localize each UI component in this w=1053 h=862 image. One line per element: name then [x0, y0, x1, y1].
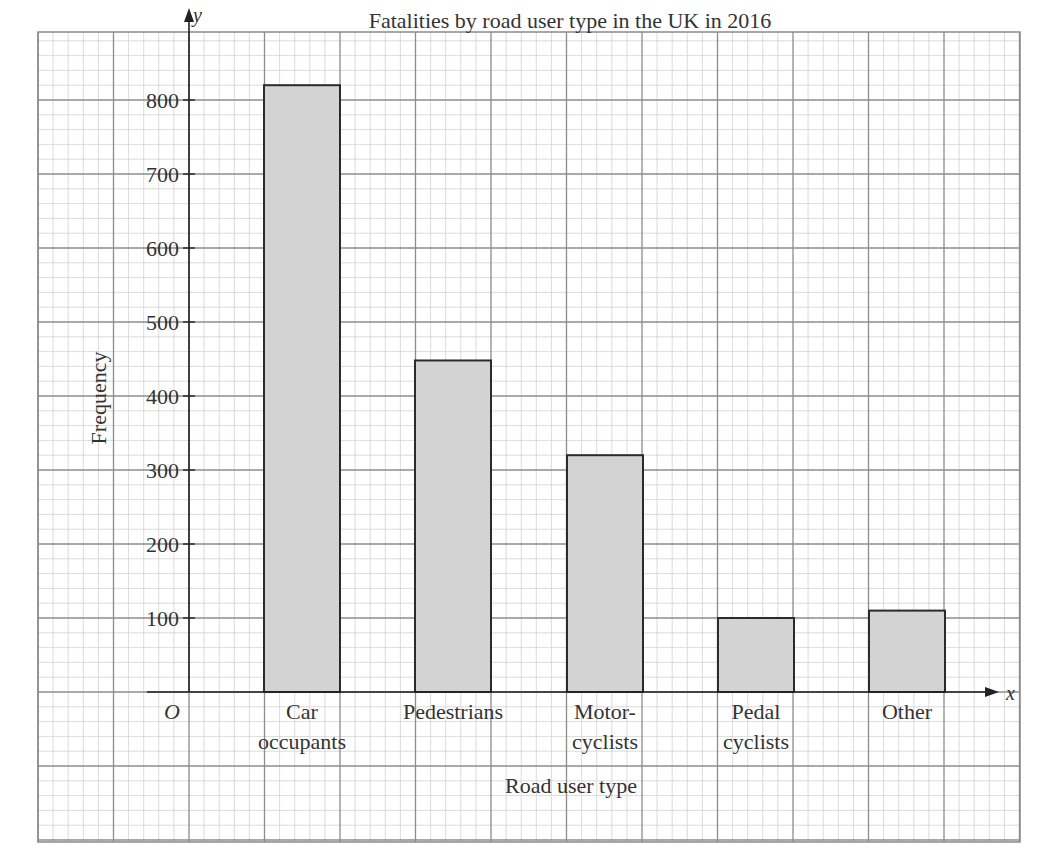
bar-car-occupants: [264, 85, 340, 692]
y-tick-label: 700: [146, 162, 179, 187]
y-tick-label: 500: [146, 310, 179, 335]
x-axis-symbol: x: [1005, 682, 1015, 704]
y-tick-label: 100: [146, 606, 179, 631]
y-tick-label: 200: [146, 532, 179, 557]
x-axis-arrow-icon: [985, 687, 999, 697]
y-axis-label: Frequency: [86, 352, 111, 445]
y-tick-label: 400: [146, 384, 179, 409]
grid-major-lines: [38, 32, 1020, 842]
x-category-label: cyclists: [572, 729, 638, 754]
x-category-label: Car: [286, 699, 318, 724]
bar-motorcyclists: [567, 455, 643, 692]
y-ticks: 100200300400500600700800: [146, 88, 195, 631]
x-category-labels: CaroccupantsPedestriansMotor-cyclistsPed…: [258, 699, 933, 754]
x-category-label: occupants: [258, 729, 346, 754]
bar-chart: 100200300400500600700800 y x O Fatalitie…: [0, 0, 1053, 862]
bar-pedal-cyclists: [718, 618, 794, 692]
grid-border: [38, 32, 1020, 842]
x-category-label: Pedal: [732, 699, 781, 724]
x-axis-label: Road user type: [505, 773, 637, 798]
x-category-label: cyclists: [723, 729, 789, 754]
grid-minor-lines: [38, 32, 1020, 842]
y-axis-symbol: y: [191, 4, 202, 27]
bar-pedestrians: [415, 360, 491, 692]
y-tick-label: 600: [146, 236, 179, 261]
x-category-label: Pedestrians: [403, 699, 503, 724]
y-tick-label: 300: [146, 458, 179, 483]
chart-title: Fatalities by road user type in the UK i…: [369, 8, 772, 33]
x-category-label: Motor-: [574, 699, 636, 724]
origin-label: O: [164, 699, 180, 724]
y-tick-label: 800: [146, 88, 179, 113]
x-category-label: Other: [882, 699, 933, 724]
bar-other: [869, 611, 945, 692]
bars: [264, 85, 945, 692]
